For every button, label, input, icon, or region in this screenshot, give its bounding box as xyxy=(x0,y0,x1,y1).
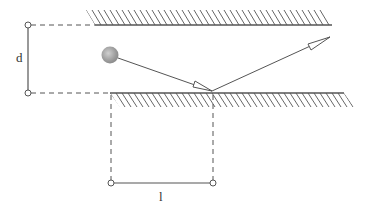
top-wall xyxy=(80,10,335,25)
bottom-wall xyxy=(104,93,353,107)
ball xyxy=(102,47,119,64)
reflected-ray xyxy=(212,37,330,91)
dimension-l-left-endpoint xyxy=(108,180,114,186)
incident-arrowhead-icon xyxy=(193,81,212,91)
dimension-d-top-endpoint xyxy=(25,22,31,28)
dimension-d-bottom-endpoint xyxy=(25,90,31,96)
reflected-arrowhead-icon xyxy=(308,37,330,50)
dimension-l: l xyxy=(108,180,216,204)
bottom-wall-hatching xyxy=(104,93,353,107)
dimension-l-right-endpoint xyxy=(210,180,216,186)
label-l: l xyxy=(159,189,163,204)
dimension-d: d xyxy=(16,22,31,96)
incident-ray xyxy=(118,58,212,91)
top-wall-hatching xyxy=(80,10,335,25)
label-d: d xyxy=(16,50,23,65)
reflection-diagram: d l xyxy=(0,0,369,210)
